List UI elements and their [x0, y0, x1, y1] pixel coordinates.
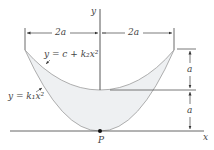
- upper-curve-leader: [46, 60, 50, 64]
- upper-height-label: a: [187, 65, 192, 74]
- upper-curve-equation: y = c + k₂x²: [44, 50, 98, 59]
- left-width-label: 2a: [55, 28, 66, 37]
- lower-curve-equation: y = k₁x²: [8, 92, 44, 101]
- x-axis-label: x: [203, 133, 208, 142]
- point-p-label: P: [98, 136, 104, 145]
- right-width-label: 2a: [128, 28, 139, 37]
- parabola-area-diagram: y x 2a 2a a a y = c + k₂x² y = k₁x² P: [0, 0, 214, 150]
- y-axis-label: y: [91, 7, 96, 16]
- shaded-region: [25, 50, 174, 131]
- lower-height-label: a: [187, 106, 192, 115]
- diagram-graphics: [0, 0, 214, 150]
- point-p-marker: [98, 129, 102, 133]
